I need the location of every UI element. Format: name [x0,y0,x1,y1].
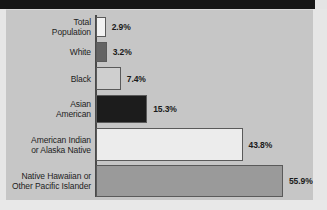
bar-category-label: Total Population [0,17,91,37]
bar-value-label: 2.9% [112,22,131,32]
bar-row: Asian American15.3% [6,95,313,123]
bar-row: American Indian or Alaska Native43.8% [6,128,313,161]
bar-value-label: 55.9% [289,176,313,186]
bar-category-label: White [0,47,91,57]
scan-top-band-edge [315,0,327,9]
bar-5 [96,165,283,197]
bar-0 [96,17,106,37]
bar-3 [96,95,147,123]
page-right-margin [313,9,327,210]
bar-value-label: 15.3% [153,104,177,114]
bar-value-label: 7.4% [127,74,146,84]
bar-value-label: 43.8% [249,140,273,150]
bar-category-label: Black [0,74,91,84]
bar-row: White3.2% [6,42,313,62]
bar-2 [96,67,121,90]
bar-1 [96,42,107,62]
chart-screenshot: Total Population2.9%White3.2%Black7.4%As… [0,0,327,210]
bar-chart: Total Population2.9%White3.2%Black7.4%As… [6,10,313,200]
bar-row: Native Hawaiian or Other Pacific Islande… [6,165,313,197]
bar-4 [96,128,243,161]
page-bottom-margin [0,200,327,210]
scan-top-band [0,0,315,9]
bar-row: Total Population2.9% [6,17,313,37]
bar-category-label: Native Hawaiian or Other Pacific Islande… [0,171,91,191]
bar-row: Black7.4% [6,67,313,90]
bar-value-label: 3.2% [113,47,132,57]
bar-category-label: American Indian or Alaska Native [0,135,91,155]
bar-category-label: Asian American [0,99,91,119]
